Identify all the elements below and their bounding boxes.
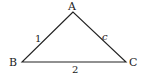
vertex-label-a: A bbox=[67, 0, 77, 13]
side-label-bc: 2 bbox=[72, 64, 78, 75]
side-label-ac: c bbox=[102, 31, 108, 42]
vertex-label-c: C bbox=[129, 56, 137, 69]
triangle-diagram: A B C 1 c 2 bbox=[0, 0, 145, 75]
vertex-label-b: B bbox=[9, 56, 17, 69]
side-label-ab: 1 bbox=[35, 33, 41, 44]
